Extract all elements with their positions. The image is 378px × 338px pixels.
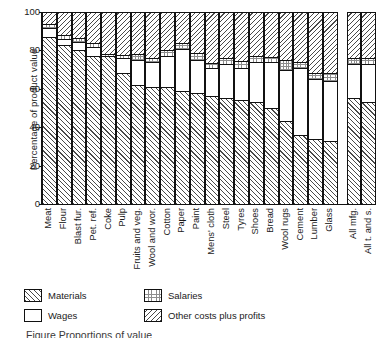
stacked-bar[interactable]	[264, 12, 279, 204]
bar-slot[interactable]	[234, 12, 249, 204]
bar-segment-mat	[117, 73, 130, 204]
bar-slot[interactable]	[101, 12, 116, 204]
x-tick-label: Glass	[326, 208, 335, 232]
bar-slot[interactable]	[131, 12, 146, 204]
group-gap-label	[338, 206, 347, 278]
x-label-slot: Wool and wor.	[145, 206, 160, 278]
plot-area: 020406080100	[42, 12, 376, 204]
bar-slot[interactable]	[361, 12, 376, 204]
bar-slot[interactable]	[308, 12, 323, 204]
bar-segment-mat	[324, 141, 337, 204]
x-tick-label: Wool and wor.	[148, 208, 157, 267]
stacked-bar[interactable]	[101, 12, 116, 204]
x-tick-label: Cement	[296, 208, 305, 241]
bar-slot[interactable]	[72, 12, 87, 204]
stacked-bar[interactable]	[234, 12, 249, 204]
bar-slot[interactable]	[42, 12, 57, 204]
bar-segment-wag	[176, 49, 189, 91]
x-label-slot: Meat	[42, 206, 57, 278]
stacked-bar[interactable]	[361, 12, 376, 204]
bar-slot[interactable]	[190, 12, 205, 204]
stacked-bar[interactable]	[308, 12, 323, 204]
x-tick-label: Pet. ref.	[89, 208, 98, 241]
bar-slot[interactable]	[323, 12, 338, 204]
x-label-slot: Mens' cloth	[205, 206, 220, 278]
bar-segment-oth	[117, 12, 130, 55]
legend-swatch-sal-icon	[144, 289, 162, 302]
bar-segment-sal	[43, 24, 56, 29]
bar-segment-wag	[362, 64, 375, 102]
x-tick-label: Cotton	[163, 208, 172, 235]
chart-legend: MaterialsSalariesWagesOther costs plus p…	[24, 285, 364, 325]
stacked-bar[interactable]	[42, 12, 57, 204]
x-tick-label: Blast fur.	[74, 208, 83, 244]
bar-slot[interactable]	[145, 12, 160, 204]
stacked-bar[interactable]	[72, 12, 87, 204]
x-label-slot: Paint	[190, 206, 205, 278]
bar-segment-sal	[73, 38, 86, 42]
stacked-bar[interactable]	[116, 12, 131, 204]
bar-segment-mat	[294, 135, 307, 204]
stacked-bar[interactable]	[219, 12, 234, 204]
bar-segment-sal	[280, 60, 293, 70]
bar-slot[interactable]	[293, 12, 308, 204]
bar-segment-oth	[206, 12, 219, 63]
bar-slot[interactable]	[86, 12, 101, 204]
bar-segment-wag	[146, 62, 159, 87]
bar-slot[interactable]	[219, 12, 234, 204]
stacked-bar[interactable]	[249, 12, 264, 204]
bar-segment-mat	[161, 87, 174, 204]
bar-segment-wag	[132, 60, 145, 85]
bar-slot[interactable]	[116, 12, 131, 204]
stacked-bar[interactable]	[175, 12, 190, 204]
stacked-bar[interactable]	[160, 12, 175, 204]
bar-slot[interactable]	[249, 12, 264, 204]
x-label-slot: Steel	[219, 206, 234, 278]
bar-slot[interactable]	[160, 12, 175, 204]
x-tick-label: Paper	[178, 208, 187, 233]
bar-segment-oth	[102, 12, 115, 54]
bar-segment-sal	[132, 54, 145, 60]
bar-slot[interactable]	[175, 12, 190, 204]
stacked-bar[interactable]	[131, 12, 146, 204]
bar-segment-mat	[206, 96, 219, 204]
bar-segment-mat	[102, 56, 115, 204]
legend-item[interactable]: Salaries	[144, 289, 202, 302]
stacked-bar[interactable]	[145, 12, 160, 204]
stacked-bar[interactable]	[347, 12, 362, 204]
bar-segment-mat	[87, 56, 100, 204]
legend-row: MaterialsSalaries	[24, 285, 364, 305]
figure-caption: Figure Proportions of value	[26, 329, 152, 338]
stacked-bar[interactable]	[293, 12, 308, 204]
bar-segment-oth	[362, 12, 375, 58]
bar-segment-wag	[220, 64, 233, 99]
stacked-bar[interactable]	[279, 12, 294, 204]
stacked-bar[interactable]	[86, 12, 101, 204]
bar-segment-wag	[117, 58, 130, 73]
legend-item[interactable]: Wages	[24, 309, 144, 322]
bar-segment-wag	[250, 62, 263, 102]
bar-segment-mat	[73, 50, 86, 204]
y-axis-title: Percentage of product value	[28, 15, 39, 205]
bar-slot[interactable]	[205, 12, 220, 204]
bar-segment-wag	[43, 28, 56, 37]
bar-segment-oth	[280, 12, 293, 60]
stacked-bar[interactable]	[190, 12, 205, 204]
bar-slot[interactable]	[279, 12, 294, 204]
bar-segment-sal	[250, 56, 263, 62]
stacked-bar[interactable]	[323, 12, 338, 204]
legend-item[interactable]: Other costs plus profits	[144, 309, 265, 322]
legend-item[interactable]: Materials	[24, 289, 144, 302]
bar-slot[interactable]	[347, 12, 362, 204]
x-label-slot: Cotton	[160, 206, 175, 278]
bar-segment-mat	[176, 91, 189, 204]
bar-slot[interactable]	[264, 12, 279, 204]
bar-slot[interactable]	[57, 12, 72, 204]
bar-segment-mat	[191, 93, 204, 204]
bar-segment-oth	[265, 12, 278, 57]
x-label-slot: All t. and s.	[361, 206, 376, 278]
x-tick-label: Tyres	[237, 208, 246, 231]
x-axis-labels: MeatFlourBlast fur.Pet. ref.CokePulpFrui…	[42, 206, 376, 278]
stacked-bar[interactable]	[205, 12, 220, 204]
stacked-bar[interactable]	[57, 12, 72, 204]
